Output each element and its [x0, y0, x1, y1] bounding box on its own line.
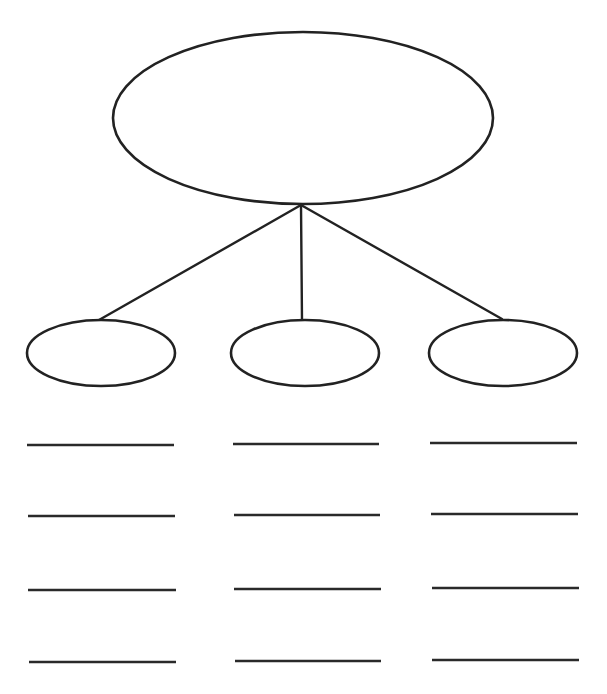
- subtopic-ellipse-middle[interactable]: [231, 320, 379, 386]
- concept-map-diagram: [0, 0, 607, 694]
- subtopic-node-right[interactable]: [429, 320, 577, 386]
- main-topic-ellipse[interactable]: [113, 32, 493, 204]
- detail-lines-middle: [233, 444, 381, 661]
- main-topic-node[interactable]: [113, 32, 493, 204]
- connector-right: [301, 205, 502, 319]
- detail-lines-right: [430, 443, 579, 660]
- connector-left: [99, 205, 301, 320]
- connectors: [99, 205, 502, 320]
- subtopic-ellipse-right[interactable]: [429, 320, 577, 386]
- subtopic-node-middle[interactable]: [231, 320, 379, 386]
- connector-middle: [301, 205, 302, 320]
- detail-lines-left: [27, 445, 176, 662]
- subtopic-ellipse-left[interactable]: [27, 320, 175, 386]
- subtopic-node-left[interactable]: [27, 320, 175, 386]
